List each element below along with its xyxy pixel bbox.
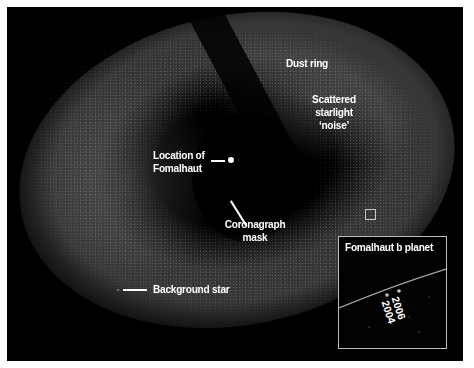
coronagraph-mask-label: Coronagraph mask xyxy=(220,218,290,244)
location-label-line1: Location of xyxy=(153,149,205,162)
scattered-label-line1: Scattered xyxy=(303,93,365,106)
dust-ring-label: Dust ring xyxy=(286,57,328,70)
scattered-label-line3: ‘noise’ xyxy=(303,119,365,132)
background-star-label: Background star xyxy=(153,283,229,296)
orbit-arc-icon xyxy=(339,237,446,348)
fomalhaut-b-inset: Fomalhaut b planet 2006 2004 xyxy=(338,236,447,349)
background-star-leader-line xyxy=(123,289,147,291)
planet-location-box xyxy=(365,209,376,220)
fomalhaut-leader-line xyxy=(211,160,225,162)
location-label-line2: Fomalhaut xyxy=(153,162,205,175)
scattered-starlight-label: Scattered starlight ‘noise’ xyxy=(303,93,365,132)
astronomy-image: Dust ring Scattered starlight ‘noise’ Lo… xyxy=(7,7,463,361)
coronagraph-label-line1: Coronagraph xyxy=(220,218,290,231)
fomalhaut-star-marker-icon xyxy=(228,157,234,163)
fomalhaut-location-label: Location of Fomalhaut xyxy=(153,149,205,175)
scattered-label-line2: starlight xyxy=(303,106,365,119)
coronagraph-label-line2: mask xyxy=(220,231,290,244)
background-star-marker-icon xyxy=(117,289,119,291)
